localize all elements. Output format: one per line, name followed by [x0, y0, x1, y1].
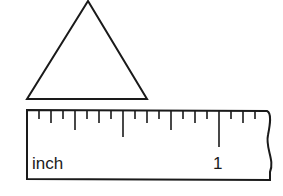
triangle-shape — [27, 1, 147, 99]
ruler-inch-mark-label: 1 — [213, 155, 222, 172]
ruler-outline — [27, 110, 271, 180]
ruler-unit-label: inch — [32, 155, 63, 172]
